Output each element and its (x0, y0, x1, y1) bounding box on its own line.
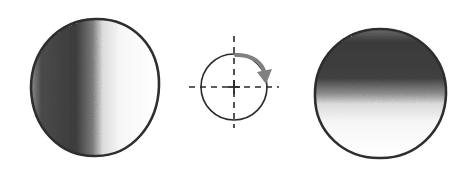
rotation-arrow-icon (236, 55, 265, 74)
right-sphere (315, 29, 446, 158)
rotation-symbol (189, 36, 279, 128)
left-sphere (31, 19, 159, 156)
rotation-arrowhead-icon (257, 69, 272, 84)
diagram-canvas (0, 0, 473, 180)
